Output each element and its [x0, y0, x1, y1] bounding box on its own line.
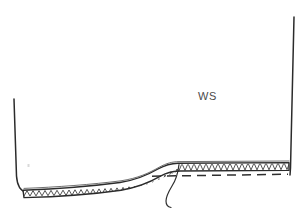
figure-root: WS — [0, 0, 308, 217]
hatched-lining-band — [23, 163, 289, 198]
cross-section-drawing — [0, 0, 308, 217]
right-wall — [290, 17, 294, 175]
paper-speck — [28, 164, 30, 167]
dashed-reference-line — [152, 174, 288, 176]
label-ws: WS — [198, 91, 217, 102]
left-wall — [14, 99, 26, 193]
